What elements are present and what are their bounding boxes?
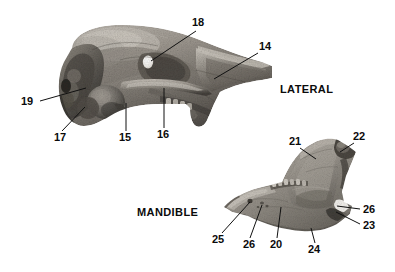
view-label-mandible: MANDIBLE (137, 207, 198, 218)
callout-19: 19 (21, 96, 33, 107)
mandible-lateral-specimen (222, 138, 356, 233)
callout-14: 14 (259, 41, 271, 52)
view-label-lateral: LATERAL (280, 84, 333, 95)
callout-20: 20 (270, 239, 282, 250)
callout-18: 18 (192, 17, 204, 28)
callout-21: 21 (289, 136, 301, 147)
callout-25: 25 (212, 234, 224, 245)
callout-23: 23 (363, 220, 375, 231)
callout-16: 16 (157, 129, 169, 140)
skull-lateral-specimen (57, 25, 272, 130)
callout-22: 22 (353, 131, 365, 142)
callout-15: 15 (119, 132, 131, 143)
callout-24: 24 (308, 244, 320, 255)
anatomical-figure: 18 14 19 17 15 16 21 22 26 23 25 26 20 2… (0, 0, 395, 272)
callout-26-bottom: 26 (243, 239, 255, 250)
callout-17: 17 (54, 132, 66, 143)
callout-26-right: 26 (363, 204, 375, 215)
